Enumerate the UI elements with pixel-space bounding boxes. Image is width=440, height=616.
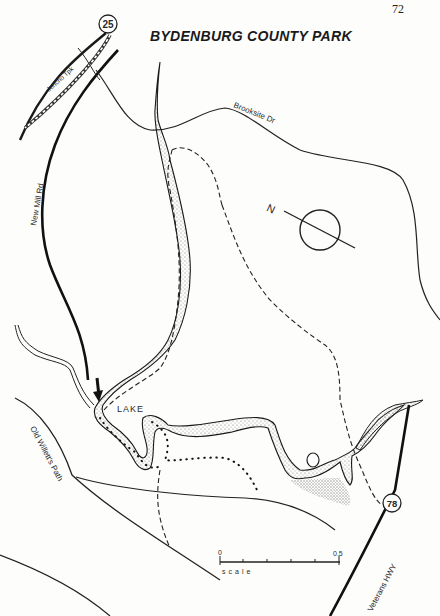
map-canvas: 25 Jericho Tpk New Mill Rd Brooksite Dr (0, 0, 440, 616)
road-south (0, 555, 110, 616)
park-map: 72 BYDENBURG COUNTY PARK 25 Jericho Tpk (0, 0, 440, 616)
svg-text:Jericho Tpk: Jericho Tpk (45, 65, 76, 94)
creek (15, 325, 94, 408)
svg-text:25: 25 (102, 19, 114, 30)
scale-bar: 0 0.5 scale (218, 549, 343, 575)
svg-text:Veterans HWY: Veterans HWY (366, 562, 399, 613)
svg-text:78: 78 (387, 498, 398, 509)
lake-label: LAKE (117, 404, 144, 414)
svg-text:scale: scale (222, 568, 253, 575)
road-brooksite-dr: Brooksite Dr (96, 70, 440, 320)
road-old-willetts-path: Old Willett's Path (15, 398, 335, 580)
svg-text:0.5: 0.5 (333, 550, 343, 557)
svg-text:Old Willett's Path: Old Willett's Path (28, 425, 64, 483)
svg-text:N: N (265, 201, 277, 215)
compass-north-icon: N (265, 201, 355, 250)
route-25-shield: 25 (99, 15, 117, 33)
route-78-shield: 78 (383, 494, 401, 512)
svg-text:0: 0 (218, 549, 222, 556)
